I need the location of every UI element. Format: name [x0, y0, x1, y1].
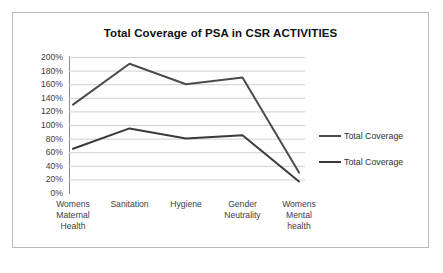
x-axis-category-label-line: Maternal: [44, 210, 102, 221]
plot-area: [69, 57, 305, 193]
x-axis-category-label: WomensMentalhealth: [270, 199, 328, 232]
y-axis-tick-label: 200%: [41, 53, 63, 62]
y-axis-tick-label: 0%: [51, 189, 63, 198]
x-axis-category-labels: WomensMaternalHealthSanitationHygieneGen…: [69, 199, 305, 247]
y-axis-tick-label: 40%: [46, 162, 63, 171]
legend-item-label: Total Coverage: [344, 131, 403, 141]
x-axis-category-label-line: Womens: [44, 199, 102, 210]
legend-line-swatch: [319, 161, 341, 163]
x-axis-category-label: WomensMaternalHealth: [44, 199, 102, 232]
x-axis-category-label-line: Womens: [270, 199, 328, 210]
series-line-1: [73, 64, 299, 173]
series-line-2: [73, 128, 299, 181]
y-axis-tick-label: 100%: [41, 121, 63, 130]
y-axis-tick-labels: 200%180%160%140%120%100%80%60%40%20%0%: [23, 57, 67, 193]
x-axis-category-label: Sanitation: [101, 199, 159, 210]
y-axis-tick-label: 20%: [46, 175, 63, 184]
y-axis-tick-label: 60%: [46, 148, 63, 157]
chart-frame: Total Coverage of PSA in CSR ACTIVITIES …: [12, 12, 429, 248]
legend-item-label: Total Coverage: [344, 157, 403, 167]
series-lines: [69, 57, 305, 193]
legend: Total CoverageTotal Coverage: [319, 123, 427, 175]
legend-item[interactable]: Total Coverage: [319, 149, 427, 175]
x-axis-category-label-line: health: [270, 221, 328, 232]
x-axis-category-label-line: Health: [44, 221, 102, 232]
y-axis-tick-label: 160%: [41, 80, 63, 89]
y-axis-tick-label: 80%: [46, 134, 63, 143]
x-axis-category-label-line: Hygiene: [157, 199, 215, 210]
y-axis-tick-label: 140%: [41, 94, 63, 103]
legend-line-swatch: [319, 135, 341, 137]
x-axis-category-label: Hygiene: [157, 199, 215, 210]
x-axis-category-label-line: Mental: [270, 210, 328, 221]
x-axis-category-label-line: Gender: [214, 199, 272, 210]
y-axis-tick-label: 120%: [41, 107, 63, 116]
x-axis-category-label-line: Sanitation: [101, 199, 159, 210]
y-axis-tick-label: 180%: [41, 66, 63, 75]
x-axis-category-label-line: Neutrality: [214, 210, 272, 221]
legend-item[interactable]: Total Coverage: [319, 123, 427, 149]
chart-title: Total Coverage of PSA in CSR ACTIVITIES: [13, 27, 428, 39]
x-axis-category-label: GenderNeutrality: [214, 199, 272, 221]
